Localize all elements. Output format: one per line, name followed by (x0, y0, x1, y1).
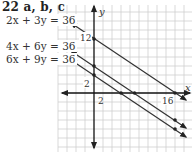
tick-x-16: 16 (162, 96, 174, 106)
y-axis-label: y (98, 6, 105, 17)
equation-label-3: 6x + 9y = 36 (6, 53, 77, 65)
tick-x-2: 2 (98, 96, 104, 106)
tick-y-12: 12 (80, 33, 91, 43)
line-4x-6y-36 (71, 51, 186, 128)
equation-label-2: 4x + 6y = 36 (6, 40, 77, 52)
tick-y-2: 2 (84, 79, 90, 89)
equation-label-1: 2x + 3y = 36 (6, 14, 77, 26)
x-axis-label: x (185, 82, 191, 93)
